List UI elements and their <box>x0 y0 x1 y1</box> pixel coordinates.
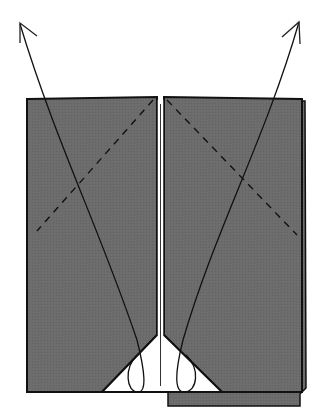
right-flap <box>164 97 302 392</box>
left-flap <box>27 97 157 392</box>
right-arrowhead-icon <box>282 22 300 44</box>
origami-diagram <box>0 0 319 414</box>
